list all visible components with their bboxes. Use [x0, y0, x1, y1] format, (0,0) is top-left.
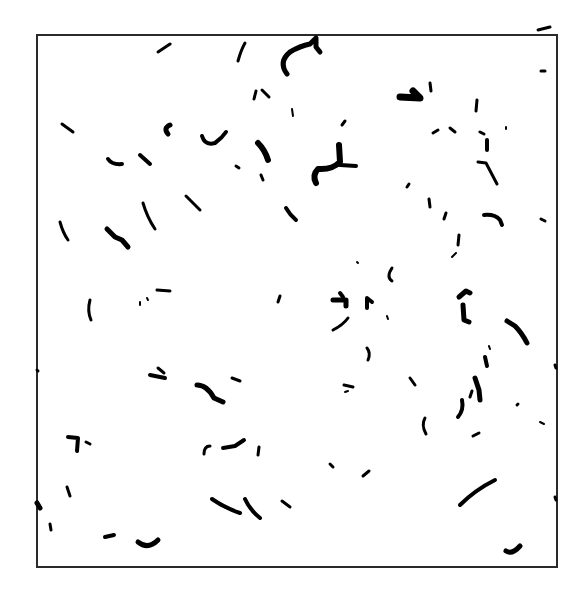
fragment-mark: [459, 291, 470, 297]
fragment-mark: [458, 235, 459, 245]
fragment-mark: [463, 305, 469, 322]
fragment-mark: [108, 159, 122, 164]
fragment-mark: [138, 540, 158, 546]
fragment-mark: [314, 145, 340, 183]
fragment-mark: [197, 385, 223, 402]
fragment-mark: [223, 440, 244, 448]
fragment-mark: [68, 437, 78, 451]
fragment-mark: [555, 497, 556, 500]
fragment-mark: [345, 391, 348, 392]
fragment-mark: [423, 418, 426, 434]
fragment-mark: [470, 391, 472, 397]
fragment-mark: [460, 480, 495, 505]
fragment-mark: [478, 162, 497, 184]
fragment-mark: [340, 293, 343, 297]
fragment-mark: [333, 318, 348, 330]
fragment-mark: [283, 38, 320, 74]
fragment-mark: [444, 213, 446, 219]
fragment-mark: [212, 499, 240, 513]
fragment-mark: [89, 300, 91, 320]
fragment-mark: [157, 290, 170, 291]
fragment-mark: [485, 357, 487, 366]
fragment-mark: [541, 219, 545, 221]
fragment-mark: [475, 378, 480, 400]
fragment-mark: [50, 524, 51, 530]
fragment-mark: [292, 109, 293, 116]
fragment-mark: [262, 90, 269, 97]
fragment-mark: [340, 165, 356, 166]
fragment-mark: [540, 422, 544, 424]
fragment-mark: [107, 229, 128, 247]
fragment-mark: [452, 253, 456, 257]
fragment-mark: [254, 91, 256, 99]
fragment-mark: [86, 442, 90, 444]
fragment-mark: [342, 121, 345, 125]
fragment-mark: [333, 300, 346, 306]
fragment-mark: [140, 155, 150, 164]
fragment-mark: [150, 375, 165, 378]
fragment-mark: [363, 471, 369, 476]
fragment-mark: [484, 215, 502, 225]
fragment-mark: [105, 535, 114, 537]
fragment-mark: [517, 404, 518, 405]
fragment-mark: [407, 184, 409, 187]
fragment-mark: [458, 400, 463, 417]
fragment-mark: [357, 262, 358, 263]
fragment-mark: [238, 43, 245, 61]
fragment-mark: [367, 348, 369, 360]
fragment-mark: [450, 128, 455, 132]
fragment-mark: [204, 446, 210, 454]
fragment-mark: [37, 503, 40, 508]
fragment-mark: [37, 370, 38, 371]
fragment-mark: [344, 385, 353, 387]
fragment-mark: [367, 298, 372, 308]
fragment-mark: [67, 487, 70, 496]
fragment-mark: [330, 464, 333, 467]
fragment-mark: [147, 298, 148, 300]
fragment-mark: [261, 175, 263, 180]
fragment-mark: [278, 296, 280, 302]
fragment-mark: [282, 501, 290, 507]
fragment-mark: [555, 365, 556, 368]
fragment-mark: [62, 124, 73, 132]
fragment-mark: [236, 166, 239, 168]
fragment-mark: [506, 546, 520, 552]
fragment-mark: [389, 268, 392, 281]
fragment-layer: [0, 0, 584, 599]
fragment-mark: [400, 91, 420, 98]
fragment-mark: [232, 378, 240, 381]
fragment-mark: [480, 132, 484, 134]
fragment-mark: [410, 378, 415, 385]
fragment-mark: [258, 447, 259, 455]
fragment-mark: [429, 199, 430, 207]
fragment-mark: [489, 346, 490, 349]
fragment-mark: [158, 44, 170, 52]
fragment-mark: [473, 433, 479, 436]
fragment-mark: [166, 125, 170, 134]
fragment-mark: [186, 196, 200, 210]
fragment-mark: [286, 208, 296, 220]
fragment-mark: [507, 321, 527, 343]
fragment-mark: [387, 316, 388, 319]
fragment-mark: [433, 130, 438, 133]
fragment-mark: [245, 499, 260, 518]
fragment-mark: [430, 83, 431, 91]
fragment-mark: [476, 100, 477, 111]
fragment-mark: [60, 222, 68, 240]
fragment-mark: [258, 143, 268, 160]
fragment-figure: [0, 0, 584, 599]
fragment-mark: [202, 132, 226, 144]
fragment-mark: [143, 203, 155, 229]
fragment-mark: [158, 368, 164, 373]
fragment-mark: [538, 27, 550, 30]
